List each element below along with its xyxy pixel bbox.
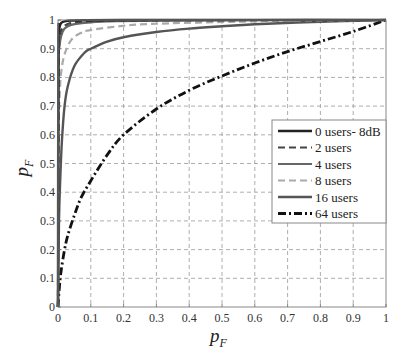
legend-label: 8 users [315, 173, 351, 188]
x-tick-label: 0.6 [247, 311, 262, 325]
x-tick-label: 0.1 [83, 311, 98, 325]
x-tick-label: 0.3 [149, 311, 164, 325]
x-tick-label: 0.8 [313, 311, 328, 325]
y-tick-label: 0.5 [40, 157, 55, 171]
x-tick-label: 0.5 [215, 311, 230, 325]
svg-text:pF: pF [208, 325, 228, 350]
legend-label: 0 users- 8dB [315, 124, 381, 139]
x-tick-label: 0.2 [116, 311, 131, 325]
y-tick-label: 0 [49, 300, 55, 314]
roc-chart: 00.10.20.30.40.50.60.70.80.91 00.10.20.3… [0, 0, 408, 360]
legend-label: 4 users [315, 157, 351, 172]
legend-label: 16 users [315, 190, 358, 205]
x-tick-label: 1 [383, 311, 389, 325]
y-tick-label: 0.2 [40, 243, 55, 257]
x-axis-label: pF [208, 325, 228, 350]
legend-label: 2 users [315, 140, 351, 155]
svg-text:pF: pF [11, 159, 36, 179]
legend-label: 64 users [315, 206, 358, 221]
y-tick-label: 0.1 [40, 271, 55, 285]
y-tick-label: 0.4 [40, 185, 55, 199]
y-tick-label: 0.7 [40, 99, 55, 113]
y-axis-label: pF [11, 159, 36, 179]
x-tick-label: 0.4 [182, 311, 197, 325]
x-tick-label: 0.7 [280, 311, 295, 325]
x-tick-label: 0.9 [346, 311, 361, 325]
y-tick-label: 1 [49, 13, 55, 27]
y-tick-label: 0.3 [40, 214, 55, 228]
y-tick-label: 0.9 [40, 42, 55, 56]
x-tick-label: 0 [55, 311, 61, 325]
y-tick-label: 0.6 [40, 128, 55, 142]
legend: 0 users- 8dB2 users4 users8 users16 user… [272, 120, 386, 223]
y-tick-label: 0.8 [40, 70, 55, 84]
